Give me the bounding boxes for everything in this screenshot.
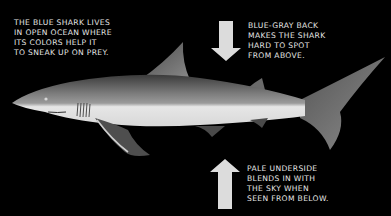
- arrow-down-icon: [211, 21, 241, 61]
- shark-eye: [44, 97, 47, 100]
- dorsal-fin: [140, 42, 190, 80]
- tail-fin: [300, 57, 385, 150]
- caption-blue-gray-back: BLUE-GRAY BACK MAKES THE SHARK HARD TO S…: [248, 21, 326, 61]
- caption-open-ocean: THE BLUE SHARK LIVES IN OPEN OCEAN WHERE…: [14, 18, 112, 58]
- arrow-up-icon: [210, 159, 240, 209]
- caption-pale-underside: PALE UNDERSIDE BLENDS IN WITH THE SKY WH…: [247, 164, 329, 204]
- blue-shark-figure: THE BLUE SHARK LIVES IN OPEN OCEAN WHERE…: [0, 0, 391, 216]
- pelvic-fin: [195, 126, 225, 137]
